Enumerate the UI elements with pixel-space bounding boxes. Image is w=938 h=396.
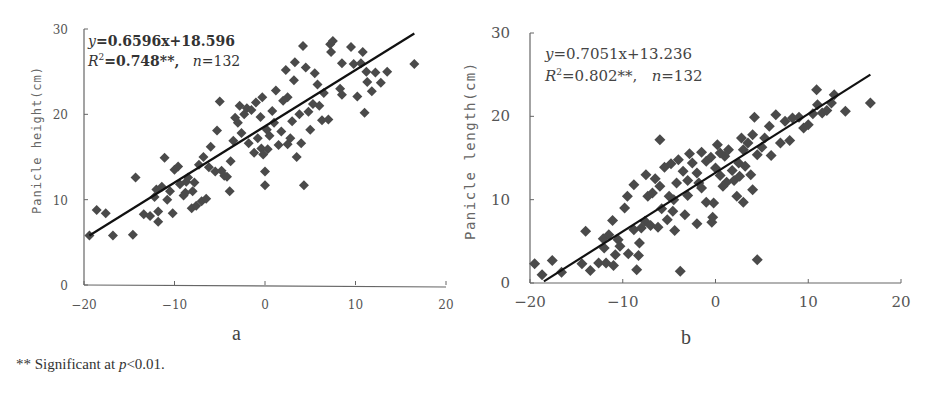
data-point-marker [691, 218, 702, 229]
data-point-marker [529, 258, 540, 269]
data-point-marker [376, 78, 386, 88]
y-tick-label: 0 [500, 274, 510, 292]
data-point-marker [745, 169, 756, 180]
data-point-marker [580, 226, 591, 237]
data-point-marker [92, 205, 102, 215]
data-point-marker [764, 121, 775, 132]
y-axis-label-b: Panicle length(cm) [462, 61, 478, 240]
data-point-marker [212, 126, 222, 136]
data-point-marker [260, 180, 270, 190]
data-point-marker [303, 107, 313, 117]
data-point-marker [747, 184, 758, 195]
data-point-marker [770, 109, 781, 120]
panel-label-a: a [232, 322, 241, 345]
data-point-marker [301, 62, 311, 72]
data-point-marker [290, 57, 300, 67]
x-tick-label: −10 [162, 298, 187, 312]
data-point-marker [198, 152, 208, 162]
data-point-marker [537, 269, 548, 280]
data-point-marker [667, 206, 678, 217]
data-point-marker [766, 150, 777, 161]
data-point-marker [623, 248, 634, 259]
data-point-marker [287, 116, 297, 126]
data-point-marker [101, 208, 111, 218]
data-point-marker [337, 58, 347, 68]
data-point-marker [675, 266, 686, 277]
data-point-marker [628, 179, 639, 190]
data-point-marker [305, 125, 315, 135]
x-tick-label: −20 [71, 298, 96, 312]
data-point-marker [358, 47, 368, 57]
data-point-marker [669, 225, 680, 236]
data-point-marker [662, 214, 673, 225]
y-tick-label: 10 [491, 191, 510, 209]
data-point-marker [326, 47, 336, 57]
data-point-marker [131, 172, 141, 182]
data-point-marker [775, 138, 786, 149]
x-tick-label: −10 [607, 293, 639, 311]
data-point-marker [108, 231, 118, 241]
data-point-marker [276, 126, 286, 136]
x-tick-label: 20 [891, 293, 910, 311]
data-point-marker [162, 195, 172, 205]
data-point-marker [352, 91, 362, 101]
data-point-marker [168, 208, 178, 218]
data-point-marker [160, 153, 170, 163]
regression-equation-a: y=0.6596x+18.596 R2=0.748**, n=132 [88, 33, 240, 69]
data-point-marker [292, 152, 302, 162]
data-point-marker [271, 85, 281, 95]
x-tick-label: 20 [438, 298, 453, 312]
data-point-marker [296, 138, 306, 148]
regression-equation-b: y=0.7051x+13.236 R2=0.802**, n=132 [545, 45, 703, 85]
data-point-marker [260, 167, 270, 177]
data-point-marker [652, 222, 663, 233]
data-point-marker [215, 97, 225, 107]
data-point-marker [281, 65, 291, 75]
data-point-marker [727, 165, 738, 176]
data-point-marker [811, 84, 822, 95]
regression-line [544, 75, 870, 282]
significance-footnote: ** Significant at p<0.01. [16, 356, 165, 373]
data-point-marker [312, 79, 322, 89]
data-point-marker [684, 148, 695, 159]
x-tick-label: 10 [799, 293, 818, 311]
data-point-marker [362, 77, 372, 87]
data-point-marker [346, 42, 356, 52]
data-point-marker [640, 169, 651, 180]
x-tick-label: −20 [514, 293, 546, 311]
y-tick-label: 30 [53, 23, 68, 37]
data-point-marker [225, 186, 235, 196]
data-point-marker [865, 98, 876, 109]
data-point-marker [752, 254, 763, 265]
data-point-marker [323, 114, 333, 124]
data-point-marker [360, 108, 370, 118]
data-point-marker [622, 191, 633, 202]
data-point-marker [619, 203, 630, 214]
data-point-marker [255, 112, 265, 122]
data-point-marker [294, 109, 304, 119]
data-point-marker [370, 68, 380, 78]
data-point-marker [226, 156, 236, 166]
y-tick-label: 30 [491, 24, 510, 42]
x-tick-label: 0 [261, 298, 269, 312]
data-point-marker [289, 75, 299, 85]
data-point-marker [153, 217, 163, 227]
data-point-marker [696, 147, 707, 158]
data-point-marker [299, 180, 309, 190]
data-point-marker [310, 68, 320, 78]
data-point-marker [188, 186, 198, 196]
data-point-marker [671, 178, 682, 189]
data-point-marker [274, 140, 284, 150]
data-point-marker [367, 86, 377, 96]
data-point-marker [267, 106, 277, 116]
data-point-marker [691, 168, 702, 179]
data-point-marker [679, 209, 690, 220]
y-tick-label: 20 [53, 108, 68, 122]
y-axis-label-a: Panicle height(cm) [30, 66, 44, 214]
data-point-marker [687, 158, 698, 169]
data-point-marker [712, 139, 723, 150]
data-point-marker [298, 41, 308, 51]
data-point-marker [409, 59, 419, 69]
data-point-marker [382, 67, 392, 77]
data-point-marker [784, 135, 795, 146]
